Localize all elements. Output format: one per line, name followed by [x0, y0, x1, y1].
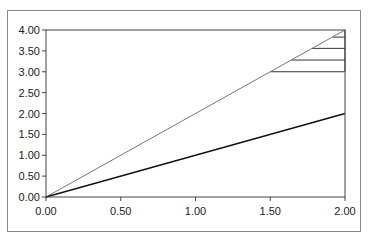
y-tick-label: 0.00 — [19, 191, 40, 203]
series-line-1 — [46, 114, 345, 198]
y-tick-label: 2.00 — [19, 108, 40, 120]
y-tick-label: 1.50 — [19, 128, 40, 140]
y-tick-label: 4.00 — [19, 24, 40, 36]
x-tick-label: 0.00 — [35, 205, 56, 217]
x-tick-label: 1.00 — [185, 205, 206, 217]
chart: 0.000.501.001.502.002.503.003.504.00 0.0… — [0, 0, 371, 238]
y-tick-label: 3.50 — [19, 45, 40, 57]
y-tick-label: 2.50 — [19, 87, 40, 99]
y-tick-label: 1.00 — [19, 149, 40, 161]
x-tick-label: 2.00 — [334, 205, 355, 217]
x-tick-label: 0.50 — [110, 205, 131, 217]
y-tick-label: 3.00 — [19, 66, 40, 78]
series-line-0 — [46, 30, 345, 197]
y-tick-label: 0.50 — [19, 170, 40, 182]
x-tick-label: 1.50 — [260, 205, 281, 217]
